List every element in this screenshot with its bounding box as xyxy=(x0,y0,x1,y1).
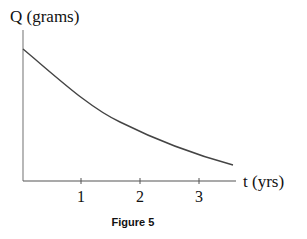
x-tick-label-1: 1 xyxy=(77,188,85,205)
chart: Q (grams) t (yrs) 1 2 3 Figure 5 xyxy=(0,0,307,239)
x-tick-label-2: 2 xyxy=(136,188,144,205)
figure-caption: Figure 5 xyxy=(112,216,155,228)
x-axis-label: t (yrs) xyxy=(243,172,284,191)
y-axis-label: Q (grams) xyxy=(10,7,79,26)
x-tick-label-3: 3 xyxy=(195,188,203,205)
decay-curve xyxy=(23,49,233,165)
